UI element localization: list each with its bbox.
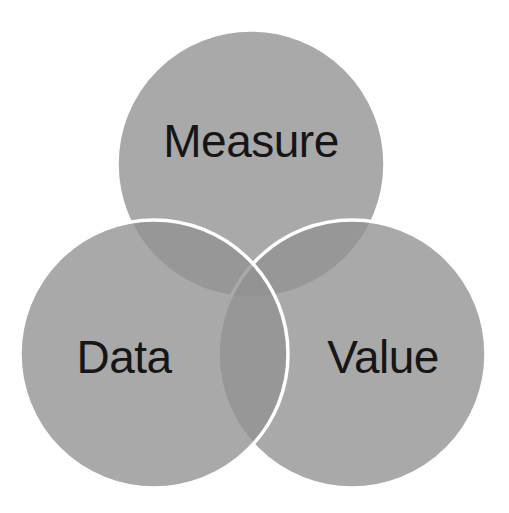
venn-diagram: Measure Data Value: [0, 0, 509, 513]
measure-label: Measure: [163, 115, 338, 167]
data-label: Data: [76, 331, 172, 383]
value-label: Value: [327, 331, 439, 383]
circles-layer: [20, 30, 486, 488]
